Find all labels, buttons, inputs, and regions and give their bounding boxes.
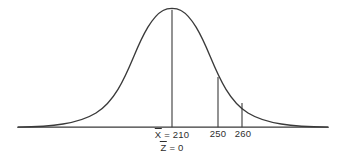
- z-label-line: Z = 0: [155, 141, 189, 154]
- z-bar-symbol: Z: [161, 141, 167, 154]
- normal-distribution-figure: X = 210 Z = 0 250 260: [0, 0, 346, 160]
- mean-label-group: X = 210 Z = 0: [155, 128, 189, 153]
- bell-curve: [18, 8, 328, 127]
- mean-label-value: = 210: [161, 129, 189, 140]
- marker-label-250: 250: [210, 128, 226, 140]
- z-label-value: = 0: [167, 142, 184, 153]
- x-bar-symbol: X: [155, 128, 162, 141]
- marker-label-260: 260: [235, 128, 251, 140]
- mean-label-line: X = 210: [155, 128, 189, 141]
- plot-strokes: [18, 8, 328, 127]
